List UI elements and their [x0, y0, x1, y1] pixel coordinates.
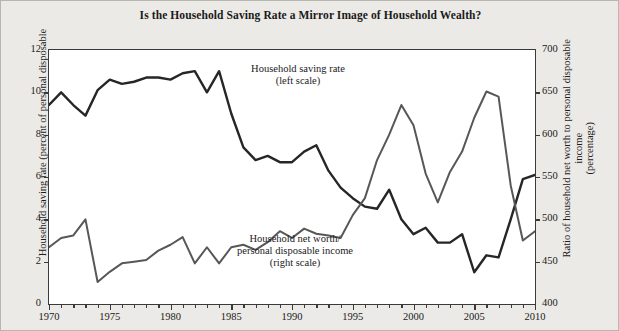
- y-tick-mark-left: [44, 219, 48, 220]
- y-tick-label-left: 6: [15, 170, 41, 181]
- x-tick-mark: [85, 304, 86, 308]
- x-tick-mark: [438, 304, 439, 308]
- annotation-net-worth: Household net worth/ personal disposable…: [197, 233, 393, 269]
- x-tick-mark: [535, 304, 536, 310]
- x-tick-label: 1990: [272, 311, 312, 322]
- x-tick-mark: [110, 304, 111, 310]
- annotation-saving-rate: Household saving rate (left scale): [223, 63, 373, 87]
- y-tick-label-right: 450: [542, 255, 572, 266]
- x-tick-mark: [73, 304, 74, 308]
- x-tick-mark: [280, 304, 281, 308]
- x-tick-mark: [474, 304, 475, 310]
- y-tick-mark-right: [536, 135, 540, 136]
- x-tick-mark: [499, 304, 500, 308]
- x-tick-mark: [353, 304, 354, 310]
- x-tick-mark: [316, 304, 317, 308]
- x-tick-mark: [268, 304, 269, 308]
- x-tick-mark: [401, 304, 402, 308]
- x-tick-mark: [511, 304, 512, 308]
- x-tick-mark: [450, 304, 451, 308]
- x-tick-mark: [304, 304, 305, 308]
- x-tick-mark: [486, 304, 487, 308]
- x-tick-mark: [341, 304, 342, 308]
- y-tick-mark-right: [536, 177, 540, 178]
- y-tick-label-right: 550: [542, 170, 572, 181]
- x-tick-label: 1970: [29, 311, 69, 322]
- y-tick-label-left: 4: [15, 212, 41, 223]
- y-tick-label-left: 8: [15, 128, 41, 139]
- x-tick-mark: [158, 304, 159, 308]
- x-tick-mark: [122, 304, 123, 308]
- x-tick-label: 1995: [333, 311, 373, 322]
- x-tick-mark: [207, 304, 208, 308]
- x-tick-mark: [414, 304, 415, 310]
- y-tick-mark-left: [44, 92, 48, 93]
- y-tick-mark-left: [44, 262, 48, 263]
- y-tick-mark-right: [536, 92, 540, 93]
- chart-title: Is the Household Saving Rate a Mirror Im…: [1, 9, 619, 21]
- x-tick-mark: [98, 304, 99, 308]
- y-tick-label-right: 700: [542, 43, 572, 54]
- x-tick-mark: [219, 304, 220, 308]
- x-tick-mark: [195, 304, 196, 308]
- x-tick-mark: [183, 304, 184, 308]
- x-tick-label: 2005: [454, 311, 494, 322]
- y-axis-label-right: Ratio of household net worth to personal…: [561, 23, 596, 273]
- x-tick-mark: [61, 304, 62, 308]
- y-tick-label-right: 500: [542, 212, 572, 223]
- x-tick-label: 1985: [211, 311, 251, 322]
- x-tick-label: 2010: [515, 311, 555, 322]
- x-tick-mark: [377, 304, 378, 308]
- x-tick-mark: [49, 304, 50, 310]
- y-tick-mark-left: [44, 177, 48, 178]
- y-tick-mark-right: [536, 262, 540, 263]
- x-tick-mark: [389, 304, 390, 308]
- x-tick-mark: [256, 304, 257, 308]
- chart-figure: Is the Household Saving Rate a Mirror Im…: [0, 0, 619, 331]
- x-tick-mark: [328, 304, 329, 308]
- x-tick-mark: [462, 304, 463, 308]
- y-tick-label-left: 0: [15, 297, 41, 308]
- x-tick-mark: [231, 304, 232, 310]
- x-tick-label: 1975: [90, 311, 130, 322]
- x-tick-mark: [523, 304, 524, 308]
- y-tick-label-right: 400: [542, 297, 572, 308]
- x-tick-mark: [243, 304, 244, 308]
- x-tick-mark: [134, 304, 135, 308]
- x-tick-mark: [426, 304, 427, 308]
- x-tick-mark: [171, 304, 172, 310]
- y-tick-mark-right: [536, 219, 540, 220]
- x-tick-label: 1980: [151, 311, 191, 322]
- x-tick-label: 2000: [394, 311, 434, 322]
- y-tick-label-left: 10: [15, 85, 41, 96]
- y-tick-mark-left: [44, 135, 48, 136]
- y-tick-label-right: 600: [542, 128, 572, 139]
- y-tick-label-right: 650: [542, 85, 572, 96]
- x-tick-mark: [292, 304, 293, 310]
- x-tick-mark: [365, 304, 366, 308]
- x-tick-mark: [146, 304, 147, 308]
- y-tick-label-left: 2: [15, 255, 41, 266]
- y-tick-label-left: 12: [15, 43, 41, 54]
